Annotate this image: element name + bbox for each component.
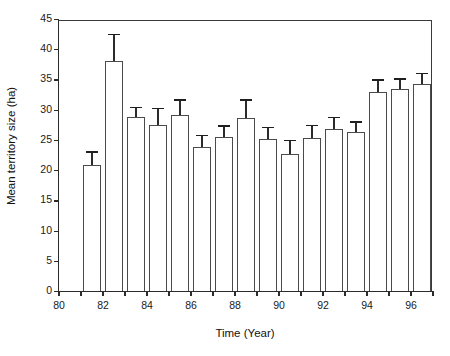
bar[interactable] [237, 118, 255, 291]
error-bar-cap [240, 99, 252, 100]
error-bar-stem [377, 79, 378, 91]
x-axis-tick-mark [322, 291, 323, 296]
error-bar-cap [284, 140, 296, 141]
bar[interactable] [325, 129, 343, 291]
y-axis-tick-mark [54, 19, 59, 20]
bar[interactable] [83, 165, 101, 291]
bar-group[interactable] [149, 106, 167, 291]
bar-group[interactable] [193, 133, 211, 291]
error-bar-cap [86, 151, 98, 152]
bar-group[interactable] [391, 76, 409, 291]
error-bar-cap [372, 79, 384, 80]
error-bar-cap [152, 108, 164, 109]
error-bar-cap [174, 99, 186, 100]
x-axis-tick-mark [58, 291, 59, 296]
bar-group[interactable] [83, 149, 101, 291]
x-axis-tick-mark [168, 291, 169, 296]
error-bar-stem [223, 125, 224, 137]
error-bar-cap [416, 73, 428, 74]
bar[interactable] [171, 115, 189, 291]
bar-group[interactable] [369, 77, 387, 291]
error-bar-cap [130, 107, 142, 108]
x-axis-tick-mark [344, 291, 345, 296]
error-bar-stem [421, 73, 422, 84]
bar[interactable] [215, 137, 233, 291]
bar-group[interactable] [237, 97, 255, 291]
bar[interactable] [149, 125, 167, 291]
bar-group[interactable] [171, 97, 189, 291]
plot-area: 051015202530354045808284868890929496 [58, 20, 432, 292]
error-bar-stem [399, 78, 400, 88]
y-axis-tick-mark [54, 110, 59, 111]
x-axis-tick-mark [432, 291, 433, 296]
bar-group[interactable] [347, 119, 365, 291]
error-bar-stem [201, 135, 202, 147]
y-axis-tick-label: 0 [24, 284, 52, 297]
error-bar-cap [328, 117, 340, 118]
x-axis-tick-mark [102, 291, 103, 296]
bar[interactable] [105, 61, 123, 291]
x-axis-tick-mark [366, 291, 367, 296]
y-axis-tick-label: 20 [24, 163, 52, 176]
error-bar-cap [394, 78, 406, 79]
bar[interactable] [413, 84, 431, 291]
x-axis-tick-mark [190, 291, 191, 296]
error-bar-stem [157, 108, 158, 125]
error-bar-stem [355, 121, 356, 132]
bar-group[interactable] [281, 138, 299, 291]
error-bar-stem [245, 99, 246, 117]
x-axis-title: Time (Year) [58, 327, 432, 339]
x-axis-tick-label: 88 [229, 299, 241, 312]
x-axis-tick-mark [256, 291, 257, 296]
bar-group[interactable] [325, 115, 343, 291]
x-axis-tick-label: 96 [405, 299, 417, 312]
x-axis-tick-mark [410, 291, 411, 296]
error-bar-stem [91, 151, 92, 164]
bar[interactable] [127, 117, 145, 291]
y-axis-tick-mark [54, 231, 59, 232]
error-bar-stem [267, 127, 268, 139]
bar-group[interactable] [105, 32, 123, 291]
x-axis-tick-label: 92 [317, 299, 329, 312]
bar[interactable] [193, 147, 211, 291]
y-axis-tick-label: 5 [24, 254, 52, 267]
x-axis-tick-mark [80, 291, 81, 296]
error-bar-cap [196, 135, 208, 136]
bar-group[interactable] [127, 105, 145, 291]
y-axis-tick-label: 15 [24, 193, 52, 206]
x-axis-tick-label: 82 [97, 299, 109, 312]
x-axis-tick-mark [278, 291, 279, 296]
error-bar-cap [262, 127, 274, 128]
bar-group[interactable] [413, 71, 431, 291]
bars-layer [59, 21, 431, 291]
y-axis-tick-mark [54, 261, 59, 262]
bar[interactable] [369, 92, 387, 291]
x-axis-tick-mark [146, 291, 147, 296]
y-axis-tick-mark [54, 140, 59, 141]
y-axis-tick-label: 25 [24, 133, 52, 146]
y-axis-tick-label: 35 [24, 72, 52, 85]
y-axis-tick-mark [54, 170, 59, 171]
chart-figure: Mean territory size (ha) 051015202530354… [0, 0, 450, 356]
x-axis-tick-mark [388, 291, 389, 296]
error-bar-stem [333, 117, 334, 129]
bar[interactable] [347, 132, 365, 291]
x-axis-tick-label: 90 [273, 299, 285, 312]
bar-group[interactable] [215, 123, 233, 291]
bar[interactable] [259, 139, 277, 291]
y-axis-title-label: Mean territory size (ha) [5, 87, 17, 205]
x-axis-tick-label: 84 [141, 299, 153, 312]
y-axis-tick-mark [54, 79, 59, 80]
bar-group[interactable] [303, 123, 321, 291]
bar-group[interactable] [259, 125, 277, 291]
bar[interactable] [281, 154, 299, 291]
y-axis-tick-mark [54, 200, 59, 201]
x-axis-tick-mark [212, 291, 213, 296]
y-axis-tick-label: 30 [24, 103, 52, 116]
bar[interactable] [391, 89, 409, 291]
error-bar-stem [289, 140, 290, 154]
error-bar-stem [179, 99, 180, 115]
error-bar-stem [135, 107, 136, 117]
error-bar-stem [311, 125, 312, 138]
bar[interactable] [303, 138, 321, 291]
